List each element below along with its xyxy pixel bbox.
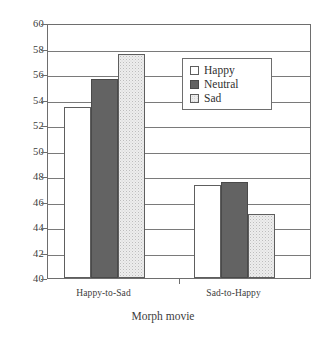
y-axis-tick-label: 58 — [4, 45, 44, 55]
legend-swatch-happy-icon — [190, 66, 199, 75]
bar-happy-happy-to-sad — [64, 107, 91, 278]
legend-item-happy: Happy — [190, 63, 267, 77]
legend-swatch-neutral-icon — [190, 80, 199, 89]
y-axis-tick-label: 52 — [4, 121, 44, 131]
legend-label-happy: Happy — [204, 64, 235, 77]
bar-sad-happy-to-sad — [118, 54, 145, 278]
x-axis-title: Morph movie — [0, 310, 326, 323]
y-axis-tick-label: 60 — [4, 19, 44, 29]
bar-happy-sad-to-happy — [194, 185, 221, 278]
x-axis-category-label: Happy-to-Sad — [59, 288, 149, 299]
bar-neutral-sad-to-happy — [221, 182, 248, 278]
bar-chart-figure: 4042444648505254565860 Happy-to-SadSad-t… — [0, 0, 326, 343]
gridline — [48, 51, 310, 52]
y-axis-tick-label: 56 — [4, 70, 44, 80]
x-axis-tick-mark — [179, 279, 180, 284]
legend-item-sad: Sad — [190, 91, 267, 105]
x-axis-category-label: Sad-to-Happy — [189, 288, 279, 299]
y-axis-tick-label: 44 — [4, 223, 44, 233]
y-axis-tick-label: 50 — [4, 147, 44, 157]
y-axis-tick-mark — [41, 279, 47, 280]
y-axis-tick-label: 42 — [4, 249, 44, 259]
bar-sad-sad-to-happy — [248, 214, 275, 278]
y-axis-tick-label: 40 — [4, 274, 44, 284]
chart-legend: Happy Neutral Sad — [182, 58, 272, 110]
legend-label-sad: Sad — [204, 92, 221, 105]
y-axis-tick-label: 54 — [4, 96, 44, 106]
legend-item-neutral: Neutral — [190, 77, 267, 91]
legend-label-neutral: Neutral — [204, 78, 238, 91]
y-axis-tick-label: 46 — [4, 198, 44, 208]
legend-swatch-sad-icon — [190, 94, 199, 103]
bar-neutral-happy-to-sad — [91, 79, 118, 278]
y-axis-tick-label: 48 — [4, 172, 44, 182]
